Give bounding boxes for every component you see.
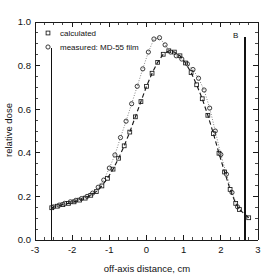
data-point-marker xyxy=(130,102,134,106)
data-point-marker xyxy=(157,36,161,40)
x-tick-label: -1 xyxy=(105,244,113,255)
legend-marker-square xyxy=(46,31,50,35)
x-axis-title: off-axis distance, cm xyxy=(104,263,191,274)
y-tick-label: 1.0 xyxy=(18,16,31,27)
y-tick-label: 0.6 xyxy=(18,104,31,115)
series-markers xyxy=(50,36,251,220)
y-axis-tick-labels: 0.00.20.40.60.81.0 xyxy=(18,16,31,245)
y-tick-label: 0.8 xyxy=(18,60,31,71)
x-tick-label: 2 xyxy=(218,244,223,255)
x-tick-label: -3 xyxy=(31,244,39,255)
x-tick-label: -2 xyxy=(68,244,76,255)
legend-label: calculated xyxy=(60,29,96,38)
x-tick-label: 3 xyxy=(255,244,260,255)
x-axis-major-ticks xyxy=(35,22,258,240)
chart-legend: calculatedmeasured: MD-55 film xyxy=(46,29,139,52)
data-point-marker xyxy=(124,119,128,123)
y-tick-label: 0.2 xyxy=(18,191,31,202)
plot-frame xyxy=(35,22,258,240)
x-tick-label: 0 xyxy=(144,244,149,255)
data-point-marker xyxy=(163,43,167,47)
x-axis-tick-labels: -3-2-10123 xyxy=(31,244,261,255)
data-point-marker xyxy=(146,50,150,54)
y-tick-label: 0.4 xyxy=(18,147,31,158)
y-axis-major-ticks xyxy=(35,22,258,240)
x-tick-label: 1 xyxy=(181,244,186,255)
y-axis-title: relative dose xyxy=(3,103,14,157)
plot-canvas: -3-2-10123 0.00.20.40.60.81.0 B calculat… xyxy=(0,0,269,276)
chart-annotations: B xyxy=(233,31,238,40)
series-lines xyxy=(52,38,249,218)
x-axis-minor-ticks xyxy=(44,22,248,240)
annotation-label: B xyxy=(233,31,238,40)
series-line-0 xyxy=(52,51,249,218)
chart-figure: -3-2-10123 0.00.20.40.60.81.0 B calculat… xyxy=(0,0,269,276)
legend-label: measured: MD-55 film xyxy=(60,43,139,52)
y-tick-label: 0.0 xyxy=(18,234,31,245)
data-point-marker xyxy=(141,67,145,71)
data-point-marker xyxy=(195,83,199,87)
y-axis-minor-ticks xyxy=(35,33,258,229)
field-boundary-lines xyxy=(52,37,245,240)
data-point-marker xyxy=(135,84,139,88)
legend-marker-circle xyxy=(46,45,50,49)
